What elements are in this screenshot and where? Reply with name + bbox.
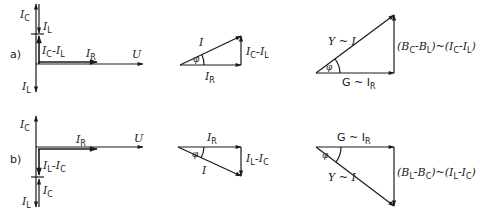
part-a-admittance-triangle: Y ~ I φ G ~ IR (BC-BL)~(IC-IL) bbox=[316, 15, 476, 91]
part-a: a) IC IL IC-IL IR U IL bbox=[10, 4, 476, 95]
part-b-admittance-triangle: G ~ IR φ Y ~ I (BL-BC)~(IL-IC) bbox=[316, 131, 476, 206]
label-b-relation: (BC-BL)~(IC-IL) bbox=[397, 40, 476, 55]
label-il-minus-ic: IL-IC bbox=[245, 152, 269, 167]
label-y-i: Y ~ I bbox=[328, 171, 356, 184]
part-b-phasor-axes: IC IR U IL-IC IC IL bbox=[19, 116, 144, 210]
label-i: I bbox=[198, 36, 204, 49]
label-phi: φ bbox=[193, 54, 200, 64]
label-il-minus-ic: IL-IC bbox=[42, 159, 66, 174]
part-a-phasor-axes: IC IL IC-IL IR U IL bbox=[19, 4, 143, 95]
label-ic-bottom: IC bbox=[42, 184, 53, 199]
label-phi: φ bbox=[322, 150, 329, 160]
label-g-ir: G ~ IR bbox=[337, 131, 371, 146]
label-il-bottom: IL bbox=[21, 80, 31, 95]
label-ir: IR bbox=[206, 131, 217, 146]
angle-arc bbox=[335, 59, 340, 73]
label-phi: φ bbox=[326, 62, 333, 72]
label-u: U bbox=[134, 132, 144, 145]
part-a-label: a) bbox=[10, 48, 21, 61]
label-g-ir: G ~ IR bbox=[342, 76, 376, 91]
label-ir: IR bbox=[204, 70, 215, 85]
label-ic: IC bbox=[19, 118, 30, 133]
label-phi: φ bbox=[192, 149, 199, 159]
hyp-i bbox=[180, 36, 241, 65]
label-y-i: Y ~ I bbox=[328, 35, 356, 48]
angle-arc bbox=[201, 147, 204, 158]
label-u: U bbox=[132, 48, 142, 61]
part-b: b) IC IR U IL-IC IC IL bbox=[10, 116, 476, 210]
label-ic-minus-il: IC-IL bbox=[245, 45, 269, 60]
angle-arc bbox=[202, 55, 204, 65]
label-il: IL bbox=[21, 195, 31, 210]
label-ir: IR bbox=[85, 47, 96, 62]
angle-arc bbox=[336, 147, 341, 162]
hyp-i bbox=[178, 147, 241, 176]
part-b-current-triangle: IR φ I IL-IC bbox=[178, 131, 269, 177]
label-ic-minus-il: IC-IL bbox=[41, 44, 65, 59]
label-i: I bbox=[201, 164, 207, 177]
part-b-label: b) bbox=[10, 153, 21, 166]
label-il-top: IL bbox=[42, 20, 52, 35]
label-ic: IC bbox=[19, 8, 30, 23]
label-ir: IR bbox=[75, 133, 86, 148]
part-a-current-triangle: I φ IR IC-IL bbox=[180, 36, 269, 85]
phasor-diagram-figure: a) IC IL IC-IL IR U IL bbox=[0, 0, 489, 218]
label-b-relation: (BL-BC)~(IL-IC) bbox=[397, 166, 476, 181]
